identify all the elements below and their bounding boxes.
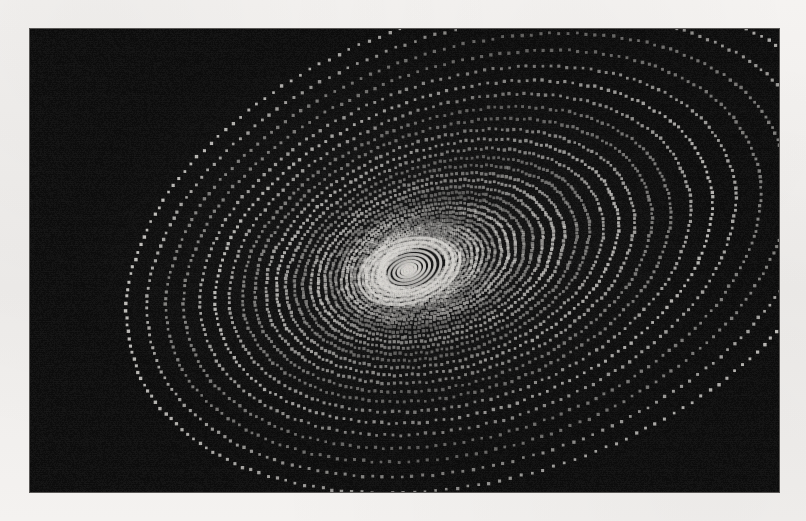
figure-root: Dotted spiral point pattern Dense field … — [0, 0, 806, 521]
figure-alt-text: Dense field of small light dots arranged… — [0, 0, 1, 1]
spiral-scatter-canvas — [30, 29, 779, 492]
plot-panel — [30, 29, 779, 492]
figure-title: Dotted spiral point pattern — [0, 0, 1, 1]
